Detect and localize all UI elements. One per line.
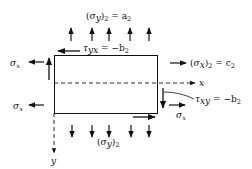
- sigma-x-left-top-label: σx: [10, 58, 20, 70]
- right-load-label: (σx)2 = c2: [190, 58, 235, 70]
- top-load-label: (σy)2 = a2: [86, 11, 131, 23]
- top-load-arrows: [71, 28, 149, 41]
- bottom-load-label: (σy)2: [97, 137, 119, 149]
- shear-top-label: τyx = −b2: [83, 43, 129, 55]
- tau-xy-leader: [164, 92, 194, 99]
- bottom-load-arrows: [72, 125, 149, 137]
- sigma-x-right-bottom-label: σx: [176, 110, 186, 122]
- stress-element-diagram: (σy)2 = a2 τyx = −b2 (σx)2 = c2 x y τxy …: [0, 0, 252, 169]
- y-axis-label: y: [50, 156, 57, 166]
- shear-right-label: τxy = −b2: [195, 94, 241, 106]
- x-axis-label: x: [199, 78, 204, 88]
- element-rectangle: [55, 56, 158, 114]
- sigma-x-left-bottom-label: σx: [13, 101, 23, 113]
